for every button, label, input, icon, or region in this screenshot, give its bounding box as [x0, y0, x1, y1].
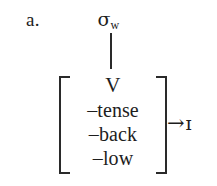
- rule-output: → ɪ: [167, 113, 192, 134]
- feature-matrix-rows: V –tense –back –low: [68, 72, 158, 170]
- sigma-symbol: σ: [98, 8, 111, 30]
- sigma-subscript-weak: w: [111, 18, 120, 32]
- feature-sign: –: [93, 147, 103, 169]
- feature-name: back: [99, 123, 137, 145]
- phonological-rule-figure: a. σw V –tense –back –low → ɪ: [0, 0, 217, 186]
- syllable-node: σw: [0, 9, 217, 31]
- matrix-category-label: V: [68, 72, 158, 98]
- output-segment-symbol: ɪ: [186, 114, 192, 133]
- association-line: [110, 33, 112, 69]
- rightwards-arrow-icon: →: [167, 113, 185, 134]
- feature-sign: –: [89, 123, 99, 145]
- feature-sign: –: [87, 99, 97, 121]
- feature-matrix: V –tense –back –low: [57, 70, 169, 180]
- feature-name: tense: [97, 99, 139, 121]
- feature-name: low: [103, 147, 133, 169]
- feature-row: –back: [68, 122, 158, 146]
- feature-row: –tense: [68, 98, 158, 122]
- feature-row: –low: [68, 146, 158, 170]
